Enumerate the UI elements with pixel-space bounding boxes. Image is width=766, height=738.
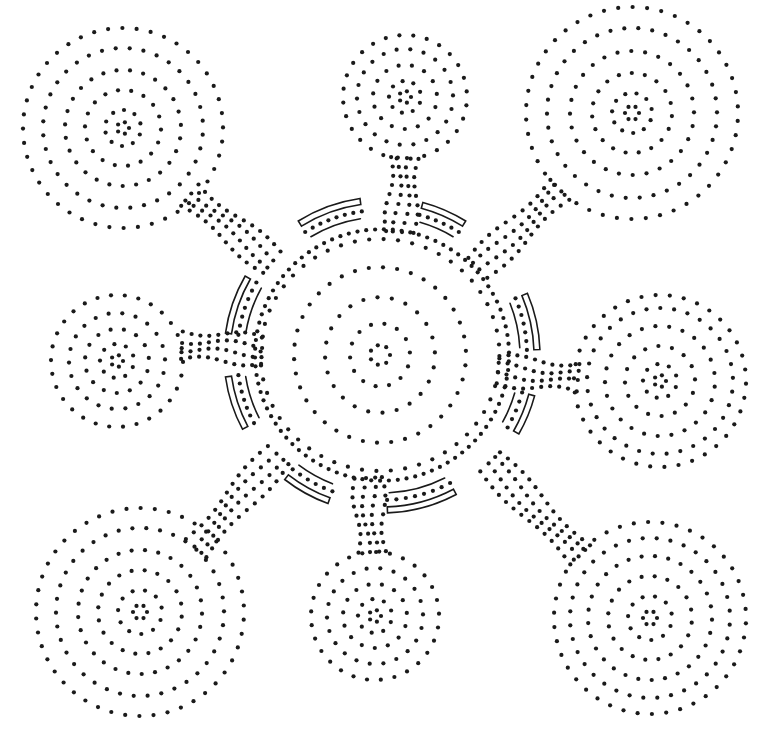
connector-paths: [179, 155, 592, 567]
arc-right-lower: [503, 390, 535, 434]
bottom-circle: [309, 550, 441, 682]
connector-bottom-right: [478, 450, 592, 566]
arc-line: [311, 219, 361, 237]
bottom-right-circle: [552, 520, 748, 716]
connector-left: [179, 329, 265, 367]
dot-painting: [0, 0, 766, 738]
arc-bottom-left: [285, 465, 335, 503]
bottom-left-circle: [34, 506, 246, 718]
arc-top-left: [298, 199, 364, 237]
arc-left-upper: [226, 276, 262, 337]
left-circle: [49, 293, 185, 429]
connector-top-left: [179, 182, 283, 275]
connector-bottom: [350, 475, 388, 555]
outlined-bar: [226, 376, 248, 429]
arc-top-right: [417, 202, 465, 236]
connector-right: [495, 353, 582, 393]
top-right-circle: [524, 5, 740, 221]
connector-bottom-left: [184, 444, 291, 559]
connector-top: [383, 155, 421, 235]
arc-bottom-right: [385, 478, 456, 513]
arc-right-upper: [510, 293, 540, 352]
right-circle: [572, 293, 748, 469]
arc-line: [246, 288, 262, 333]
arc-line: [420, 222, 453, 236]
arc-line: [510, 303, 520, 348]
satellite-circles: [21, 5, 748, 718]
outlined-bar: [514, 394, 535, 434]
top-circle: [341, 33, 469, 161]
central-circle: [259, 237, 502, 473]
connector-top-right: [466, 178, 571, 280]
arc-left-lower: [226, 373, 260, 429]
top-left-circle: [21, 26, 225, 230]
